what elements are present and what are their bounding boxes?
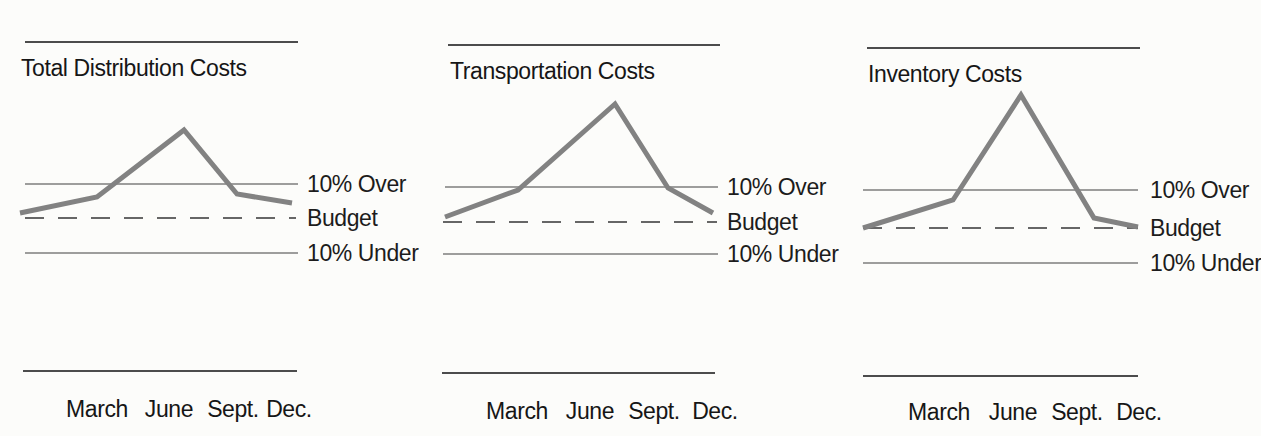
chart-title: Inventory Costs — [868, 61, 1022, 88]
chart-inventory-costs: Inventory Costs 10% Over Budget 10% Unde… — [840, 0, 1257, 436]
month-label-sept: Sept. — [1051, 399, 1103, 426]
month-label-march: March — [486, 398, 548, 425]
month-label-sept: Sept. — [207, 396, 259, 423]
chart-title: Total Distribution Costs — [21, 55, 247, 82]
month-label-june: June — [566, 398, 614, 425]
ref-label-10-percent-under: 10% Under — [1150, 251, 1261, 275]
ref-label-budget: Budget — [727, 210, 798, 234]
ref-label-10-percent-under: 10% Under — [307, 241, 418, 265]
month-label-march: March — [66, 396, 128, 423]
ref-label-10-percent-over: 10% Over — [727, 175, 826, 199]
ref-label-budget: Budget — [1150, 216, 1221, 240]
ref-label-10-percent-under: 10% Under — [727, 242, 838, 266]
ref-label-10-percent-over: 10% Over — [307, 172, 406, 196]
chart-title: Transportation Costs — [450, 58, 655, 85]
month-label-dec: Dec. — [692, 398, 738, 425]
month-label-june: June — [145, 396, 193, 423]
ref-label-budget: Budget — [307, 206, 378, 230]
month-label-dec: Dec. — [266, 396, 312, 423]
month-label-march: March — [908, 399, 970, 426]
chart-total-distribution-costs: Total Distribution Costs 10% Over Budget… — [0, 0, 420, 436]
month-label-sept: Sept. — [628, 398, 680, 425]
month-label-june: June — [989, 399, 1037, 426]
ref-label-10-percent-over: 10% Over — [1150, 178, 1249, 202]
month-label-dec: Dec. — [1116, 399, 1162, 426]
chart-transportation-costs: Transportation Costs 10% Over Budget 10%… — [420, 0, 840, 436]
